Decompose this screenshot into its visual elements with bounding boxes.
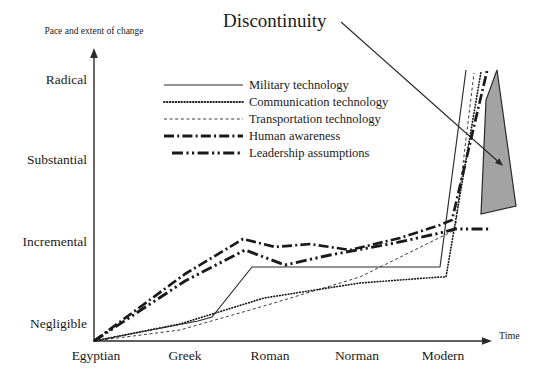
x-tick-label-greek: Greek	[143, 348, 227, 364]
x-tick-label-roman: Roman	[228, 348, 312, 364]
y-axis-title: Pace and extent of change	[44, 26, 144, 37]
legend-label-military-technology: Military technology	[249, 78, 349, 92]
y-axis-arrowhead	[90, 48, 98, 58]
y-tick-label-substantial: Substantial	[0, 152, 87, 168]
y-tick-label-incremental: Incremental	[0, 234, 87, 250]
x-axis-title: Time	[499, 330, 520, 342]
x-tick-label-norman: Norman	[315, 348, 399, 364]
discontinuity-shaded-region	[481, 70, 516, 214]
legend-label-transportation-technology: Transportation technology	[249, 112, 381, 126]
x-tick-label-egyptian: Egyptian	[54, 348, 138, 364]
y-tick-label-radical: Radical	[0, 72, 87, 88]
y-tick-label-negligible: Negligible	[0, 316, 87, 332]
discontinuity-annotation-label: Discontinuity	[223, 10, 326, 32]
discontinuity-chart: Discontinuity Pace and extent of change …	[0, 0, 533, 378]
legend-label-communication-technology: Communication technology	[249, 95, 388, 109]
x-axis-arrowhead	[482, 337, 492, 344]
legend-label-leadership-assumptions: Leadership assumptions	[249, 146, 369, 160]
legend-label-human-awareness: Human awareness	[249, 129, 340, 143]
x-tick-label-modern: Modern	[401, 348, 485, 364]
y-axis-title-text: Pace and extent of change	[44, 26, 143, 36]
